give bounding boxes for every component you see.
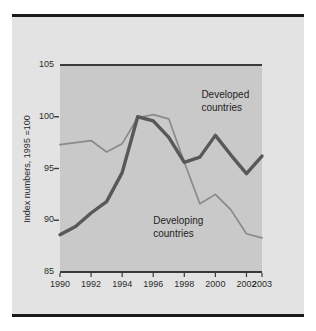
y-tick-label: 90 bbox=[28, 214, 54, 224]
series-label-developed-line1: Developed bbox=[201, 88, 249, 101]
series-label-developing-line1: Developing bbox=[153, 214, 203, 227]
x-tick-label: 1994 bbox=[107, 279, 137, 289]
y-tick-label: 85 bbox=[28, 266, 54, 276]
y-tick-label: 95 bbox=[28, 163, 54, 173]
series-label-developing-line2: countries bbox=[153, 227, 203, 240]
x-tick-label: 2003 bbox=[247, 279, 277, 289]
x-tick-label: 1998 bbox=[169, 279, 199, 289]
y-tick-label: 100 bbox=[28, 111, 54, 121]
x-tick-label: 1992 bbox=[76, 279, 106, 289]
x-tick-label: 1990 bbox=[45, 279, 75, 289]
x-tick-label: 1996 bbox=[138, 279, 168, 289]
series-label-developed: Developed countries bbox=[201, 88, 249, 114]
figure-container: Index numbers, 1995 =100 859095100105 19… bbox=[0, 0, 316, 331]
series-label-developed-line2: countries bbox=[201, 101, 249, 114]
series-label-developing: Developing countries bbox=[153, 214, 203, 240]
x-tick-label: 2000 bbox=[200, 279, 230, 289]
y-tick-label: 105 bbox=[28, 59, 54, 69]
